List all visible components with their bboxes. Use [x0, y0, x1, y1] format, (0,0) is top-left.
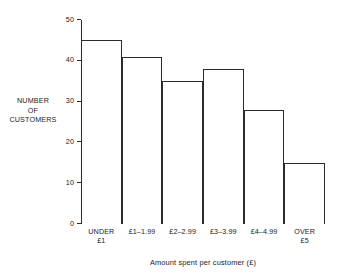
bar — [81, 40, 122, 224]
x-axis-category-labels: UNDER£1£1–1.99£2–2.99£3–3.99£4–4.99OVER£… — [81, 227, 325, 249]
y-tick-label: 0 — [70, 220, 74, 227]
bar — [122, 57, 163, 224]
x-axis-category-label: UNDER£1 — [81, 227, 122, 246]
bar-series — [81, 20, 325, 224]
x-axis-category-label-line: £2–2.99 — [162, 227, 203, 236]
bar — [244, 110, 285, 224]
x-axis-category-label-line: £3–3.99 — [203, 227, 244, 236]
x-axis-category-label-line: £4–4.99 — [244, 227, 285, 236]
x-axis-category-label-line: £1–1.99 — [122, 227, 163, 236]
x-axis-category-label-line: £1 — [81, 236, 122, 245]
bar-chart: NUMBER OF CUSTOMERS 01020304050 UNDER£1£… — [0, 0, 341, 277]
y-tick-label: 20 — [66, 138, 74, 145]
y-axis-title: NUMBER OF CUSTOMERS — [6, 96, 60, 125]
y-axis-title-line-2: OF — [6, 106, 60, 116]
x-axis-category-label-line: UNDER — [81, 227, 122, 236]
bar — [284, 163, 325, 224]
y-tick-label: 30 — [66, 98, 74, 105]
y-tick-label: 10 — [66, 179, 74, 186]
y-axis-title-line-1: NUMBER — [6, 96, 60, 106]
bar — [203, 69, 244, 224]
x-axis-category-label: £3–3.99 — [203, 227, 244, 236]
x-axis-category-label: £2–2.99 — [162, 227, 203, 236]
y-tick-label: 40 — [66, 57, 74, 64]
x-axis-category-label: OVER£5 — [284, 227, 325, 246]
plot-area: 01020304050 — [81, 20, 325, 224]
y-axis-title-line-3: CUSTOMERS — [6, 115, 60, 125]
x-axis-category-label-line: OVER — [284, 227, 325, 236]
y-tick-label: 50 — [66, 16, 74, 23]
x-axis-category-label: £4–4.99 — [244, 227, 285, 236]
x-axis-category-label: £1–1.99 — [122, 227, 163, 236]
x-axis-category-label-line: £5 — [284, 236, 325, 245]
bar — [162, 81, 203, 224]
x-axis-title: Amount spent per customer (£) — [81, 258, 325, 267]
